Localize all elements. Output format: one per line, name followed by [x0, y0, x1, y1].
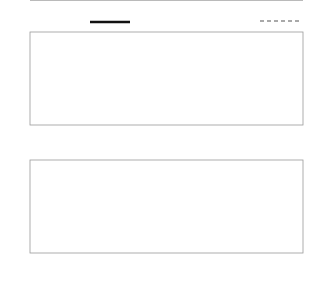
bottom-plot	[30, 0, 303, 253]
bottom-plot-frame	[30, 160, 303, 253]
figure	[0, 0, 335, 292]
top-plot-frame	[30, 32, 303, 125]
top-plot	[0, 0, 303, 125]
